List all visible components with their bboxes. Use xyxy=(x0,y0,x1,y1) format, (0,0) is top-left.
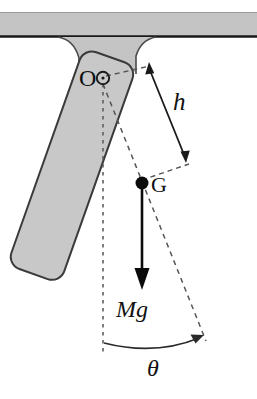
angle-arc xyxy=(104,335,204,349)
weight-label-mg: Mg xyxy=(115,296,148,322)
diagram-canvas: h O G Mg θ xyxy=(0,0,257,399)
rod-body xyxy=(7,48,137,284)
pivot-label-o: O xyxy=(79,65,96,91)
ceiling-support xyxy=(0,12,257,37)
ceiling-slab-fill xyxy=(0,12,257,37)
h-arrowhead-bottom xyxy=(181,151,190,163)
angle-arc-arrowhead xyxy=(191,335,205,344)
angle-arc-path xyxy=(104,338,199,348)
distance-label-h: h xyxy=(173,88,186,115)
angle-label-theta: θ xyxy=(147,355,159,381)
center-of-gravity-label-g: G xyxy=(151,172,167,197)
pivot-center-dot xyxy=(101,76,104,79)
physics-diagram-figure: h O G Mg θ xyxy=(0,0,257,399)
weight-force-arrow xyxy=(135,186,150,290)
pendulum-rod xyxy=(7,48,137,284)
h-arrowhead-top xyxy=(145,62,154,75)
weight-arrowhead xyxy=(135,268,150,290)
